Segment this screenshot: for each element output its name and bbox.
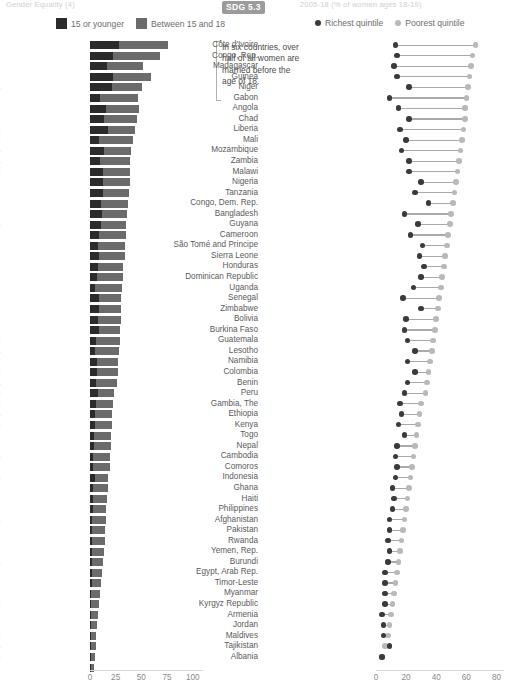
dumbbell-point-poorest-quintile [450, 200, 456, 206]
dumbbell-point-richest-quintile [393, 454, 399, 460]
dumbbell-marker-group [376, 356, 504, 367]
dumbbell-marker-group [376, 367, 504, 378]
dumbbell-point-richest-quintile [421, 264, 427, 270]
bar-segment-between-15-and-18 [94, 432, 110, 440]
dumbbell-point-poorest-quintile [468, 63, 474, 69]
bar-segment-between-15-and-18 [92, 537, 105, 545]
dumbbell-category-label: Niger [150, 82, 258, 93]
x-axis-left-tick: 25 [111, 673, 120, 682]
dumbbell-connector [409, 161, 459, 162]
dumbbell-category-label: Zimbabwe [150, 304, 258, 315]
dumbbell-category-label: Angola [150, 103, 258, 114]
dumbbell-marker-group [376, 272, 504, 283]
dumbbell-marker-group [376, 124, 504, 135]
dumbbell-point-poorest-quintile [406, 485, 412, 491]
dumbbell-category-label: Chad [150, 114, 258, 125]
header-left-text: Gender Equality (4) [6, 0, 75, 9]
legend-label-1: Between 15 and 18 [151, 19, 225, 29]
dumbbell-point-poorest-quintile [447, 221, 453, 227]
dumbbell-category-label: Armenia [150, 610, 258, 621]
bar-segment-between-15-and-18 [113, 73, 151, 81]
legend-swatch-1 [136, 18, 147, 29]
dumbbell-category-label: Bolivia [150, 314, 258, 325]
dumbbell-category-label: Burkina Faso [150, 325, 258, 336]
dumbbell-connector [406, 319, 436, 320]
dumbbell-point-poorest-quintile [458, 148, 464, 154]
bar-segment-between-15-and-18 [99, 294, 121, 302]
dumbbell-point-poorest-quintile [388, 612, 394, 618]
dumbbell-point-richest-quintile [406, 169, 412, 175]
dumbbell-category-label: Kenya [150, 420, 258, 431]
dumbbell-point-richest-quintile [396, 422, 402, 428]
bar-segment-15-or-younger [90, 221, 101, 229]
bar-segment-between-15-and-18 [91, 621, 97, 629]
dumbbell-category-label: Peru [150, 388, 258, 399]
dumbbell-point-richest-quintile [379, 612, 385, 618]
dumbbell-connector [399, 108, 465, 109]
legend-right-chart: Richest quintilePoorest quintile [315, 18, 477, 28]
dumbbell-point-poorest-quintile [462, 116, 468, 122]
dumbbell-point-richest-quintile [382, 570, 388, 576]
dumbbell-point-richest-quintile [394, 443, 400, 449]
bar-segment-between-15-and-18 [91, 590, 100, 598]
dumbbell-point-richest-quintile [403, 316, 409, 322]
bar-segment-15-or-younger [90, 316, 98, 324]
dumbbell-marker-group [376, 40, 504, 51]
dumbbell-connector [409, 87, 468, 88]
dumbbell-category-label: Yemen, Rep. [150, 546, 258, 557]
header-right-text: 2005-18 (% of women ages 18-19) [300, 0, 422, 9]
dumbbell-marker-group [376, 314, 504, 325]
dumbbell-category-label: Rwanda [150, 536, 258, 547]
x-axis-right-tick: 20 [402, 673, 411, 682]
dumbbell-marker-group [376, 82, 504, 93]
bar-segment-15-or-younger [90, 168, 103, 176]
dumbbell-category-label: Cambodia [150, 451, 258, 462]
dumbbell-point-poorest-quintile [399, 538, 405, 544]
dumbbell-point-poorest-quintile [439, 274, 445, 280]
bar-segment-between-15-and-18 [99, 326, 120, 334]
dumbbell-point-richest-quintile [396, 105, 402, 111]
dumbbell-point-richest-quintile [405, 359, 411, 365]
dumbbell-marker-group [376, 610, 504, 621]
legend-label-0: 15 or younger [71, 19, 124, 29]
x-axis-right-line [376, 670, 504, 671]
dumbbell-point-richest-quintile [408, 232, 414, 238]
dumbbell-marker-group [376, 462, 504, 473]
dumbbell-connector [415, 192, 454, 193]
dumbbell-marker-group [376, 293, 504, 304]
bar-segment-between-15-and-18 [103, 168, 130, 176]
dumbbell-point-richest-quintile [397, 401, 403, 407]
dumbbell-point-richest-quintile [393, 475, 399, 481]
dumbbell-marker-group [376, 388, 504, 399]
dumbbell-marker-group [376, 346, 504, 357]
bar-segment-15-or-younger [90, 263, 98, 271]
dumbbell-category-label: Honduras [150, 261, 258, 272]
dumbbell-point-richest-quintile [394, 74, 400, 80]
dumbbell-category-label: Burundi [150, 557, 258, 568]
dumbbell-point-poorest-quintile [473, 42, 479, 48]
bar-segment-between-15-and-18 [92, 526, 105, 534]
bar-segment-between-15-and-18 [106, 105, 139, 113]
dumbbell-marker-group [376, 441, 504, 452]
x-axis-left-line [90, 670, 203, 671]
bar-segment-15-or-younger [90, 231, 99, 239]
page-header: Gender Equality (4) SDG 5.3 2005-18 (% o… [0, 0, 515, 14]
bar-segment-15-or-younger [90, 126, 108, 134]
dumbbell-point-poorest-quintile [467, 74, 473, 80]
dumbbell-point-richest-quintile [418, 179, 424, 185]
dumbbell-point-poorest-quintile [415, 422, 421, 428]
dumbbell-point-richest-quintile [379, 654, 385, 660]
bar-segment-between-15-and-18 [99, 136, 133, 144]
dumbbell-point-poorest-quintile [424, 380, 430, 386]
bar-segment-between-15-and-18 [91, 653, 95, 661]
dumbbell-marker-group [376, 304, 504, 315]
dumbbell-connector [394, 66, 471, 67]
dumbbell-category-label: Senegal [150, 293, 258, 304]
dumbbell-category-label: Ethiopia [150, 409, 258, 420]
dumbbell-point-poorest-quintile [445, 232, 451, 238]
dumbbell-marker-group [376, 567, 504, 578]
dumbbell-point-richest-quintile [381, 622, 387, 628]
dumbbell-point-richest-quintile [406, 158, 412, 164]
x-axis-left-tick: 100 [186, 673, 200, 682]
bar-segment-between-15-and-18 [96, 400, 112, 408]
